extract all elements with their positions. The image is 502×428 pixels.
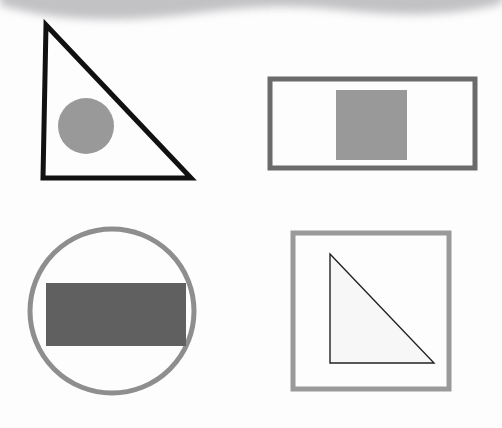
shapes-figure: [0, 0, 502, 428]
background: [0, 0, 502, 428]
inner-rectangle-fill: [46, 283, 186, 346]
shapes-diagram-canvas: [0, 0, 502, 428]
inner-square-fill: [336, 90, 407, 160]
inner-circle-fill: [58, 98, 114, 154]
